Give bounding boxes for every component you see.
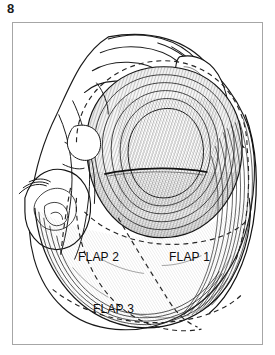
figure-plate: FLAP 1 FLAP 2 FLAP 3 (12, 22, 263, 345)
anatomical-illustration (13, 23, 262, 344)
flap-label-1: FLAP 1 (169, 251, 210, 264)
flap-label-3: FLAP 3 (93, 303, 134, 316)
scutum-notch (67, 125, 100, 160)
figure-number: 8 (7, 0, 14, 18)
flap-label-2: FLAP 2 (78, 251, 119, 264)
